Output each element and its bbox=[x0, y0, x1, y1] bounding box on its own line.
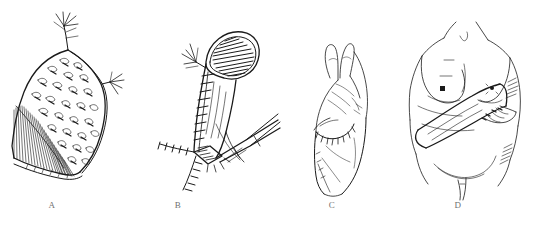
hand-forearm-illustration bbox=[296, 34, 388, 199]
panel-label-d: D bbox=[448, 200, 468, 210]
panel-b bbox=[150, 12, 280, 192]
panel-c bbox=[296, 34, 388, 199]
torso-carrier-illustration bbox=[400, 20, 526, 200]
surgical-figure: A B C D bbox=[0, 0, 536, 232]
skin-flap-illustration bbox=[6, 6, 126, 196]
panel-a bbox=[6, 6, 126, 196]
panel-label-a: A bbox=[42, 200, 62, 210]
panel-label-c: C bbox=[322, 200, 342, 210]
tubed-flap-illustration bbox=[150, 12, 280, 192]
panel-label-b: B bbox=[168, 200, 188, 210]
panel-d bbox=[400, 20, 526, 200]
